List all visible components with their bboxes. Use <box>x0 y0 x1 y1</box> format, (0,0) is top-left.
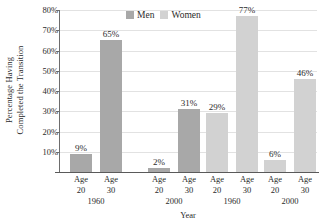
x-axis-group-label: 1960 <box>224 196 241 206</box>
x-axis-title: Year <box>59 210 317 220</box>
x-axis-group-labels: 1960200019602000 <box>59 196 317 210</box>
x-axis-tick-label-line-1: Age <box>268 174 282 185</box>
x-axis-tick-label-line-2: 30 <box>240 185 254 196</box>
bar: 77% <box>236 16 258 172</box>
x-axis-tick-label: Age20 <box>268 174 282 195</box>
bar: 9% <box>70 154 92 172</box>
bar-rect <box>70 154 92 172</box>
x-axis-tick-label: Age20 <box>74 174 88 195</box>
bar: 65% <box>100 40 122 172</box>
bar-rect <box>264 160 286 172</box>
x-axis-tick-label-line-1: Age <box>104 174 118 185</box>
x-axis-group-label: 2000 <box>166 196 183 206</box>
x-axis-group-label: 1960 <box>88 196 105 206</box>
x-axis-tick-label-line-1: Age <box>298 174 312 185</box>
x-axis-tick-label-line-2: 20 <box>210 185 224 196</box>
y-axis-title-line-1: Percentage Having <box>4 46 15 135</box>
legend: MenWomen <box>126 10 201 20</box>
y-axis-title-line-2: Completed the Transition <box>15 46 26 135</box>
bar: 6% <box>264 160 286 172</box>
x-axis-tick-label-line-1: Age <box>240 174 254 185</box>
x-axis-tick-label-line-2: 20 <box>74 185 88 196</box>
x-axis-tick-label-line-2: 20 <box>268 185 282 196</box>
legend-swatch <box>126 11 134 19</box>
x-axis-tick-label-line-1: Age <box>182 174 196 185</box>
bar-rect <box>294 79 316 172</box>
bar: 31% <box>178 109 200 172</box>
x-axis-tick-label-line-1: Age <box>210 174 224 185</box>
bar-rect <box>178 109 200 172</box>
legend-item: Women <box>160 10 200 20</box>
bar-value-label: 6% <box>269 149 281 159</box>
x-axis-tick-label: Age30 <box>182 174 196 195</box>
legend-label: Men <box>137 10 154 20</box>
plot-area: 9%65%2%31%29%77%6%46% <box>59 10 317 172</box>
x-axis-line <box>55 172 319 173</box>
bar-chart: Percentage Having Completed the Transiti… <box>0 0 322 224</box>
x-axis-tick-label-line-1: Age <box>74 174 88 185</box>
bar-value-label: 2% <box>153 157 165 167</box>
x-axis-tick-label: Age20 <box>152 174 166 195</box>
x-axis-tick-label-line-2: 30 <box>182 185 196 196</box>
legend-item: Men <box>126 10 154 20</box>
bar-rect <box>100 40 122 172</box>
bar-value-label: 65% <box>103 29 120 39</box>
bar: 29% <box>206 113 228 172</box>
bar-rect <box>236 16 258 172</box>
bar-rect <box>206 113 228 172</box>
bar-value-label: 46% <box>297 68 314 78</box>
x-axis-tick-label-line-1: Age <box>152 174 166 185</box>
bar-value-label: 31% <box>181 98 198 108</box>
bar: 46% <box>294 79 316 172</box>
bar-value-label: 77% <box>239 5 256 15</box>
legend-label: Women <box>171 10 200 20</box>
x-axis-tick-label-line-2: 30 <box>104 185 118 196</box>
legend-swatch <box>160 11 168 19</box>
x-axis-tick-label: Age20 <box>210 174 224 195</box>
bar-value-label: 9% <box>75 143 87 153</box>
bars-layer: 9%65%2%31%29%77%6%46% <box>59 10 317 172</box>
x-axis-group-label: 2000 <box>282 196 299 206</box>
x-axis-tick-label: Age30 <box>240 174 254 195</box>
x-axis-tick-label: Age30 <box>104 174 118 195</box>
y-axis-tick-labels: 10%20%30%40%50%60%70%80% <box>26 0 58 180</box>
bar-value-label: 29% <box>209 102 226 112</box>
x-axis-tick-label-line-2: 30 <box>298 185 312 196</box>
x-axis-tick-label-line-2: 20 <box>152 185 166 196</box>
x-axis-tick-label: Age30 <box>298 174 312 195</box>
